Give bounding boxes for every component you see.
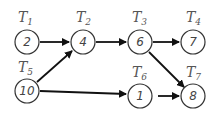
- node-t1: T1 2: [15, 9, 39, 54]
- svg-text:T4: T4: [186, 9, 201, 27]
- svg-text:T3: T3: [132, 9, 147, 27]
- node-value: 6: [136, 35, 144, 49]
- task-graph: T1 2 T2 4 T3 6 T4 7 T5 10 T6 1 T7 8: [0, 0, 222, 113]
- node-value: 4: [79, 35, 87, 49]
- svg-text:T5: T5: [18, 59, 33, 77]
- node-t7: T7 8: [181, 64, 205, 108]
- edge-t3-t7: [149, 52, 184, 87]
- node-t6: T6 1: [128, 64, 152, 108]
- node-value: 10: [19, 84, 35, 98]
- svg-text:T1: T1: [18, 9, 33, 27]
- svg-text:T6: T6: [132, 64, 147, 82]
- node-t2: T2 4: [71, 9, 95, 54]
- edge-t5-t6: [40, 91, 126, 94]
- node-value: 2: [23, 35, 31, 49]
- edge-t5-t2: [37, 51, 72, 82]
- node-value: 1: [136, 89, 144, 103]
- svg-text:T7: T7: [186, 64, 201, 82]
- node-value: 7: [189, 35, 197, 49]
- node-t3: T3 6: [128, 9, 152, 54]
- node-value: 8: [189, 89, 197, 103]
- node-t4: T4 7: [181, 9, 205, 54]
- node-t5: T5 10: [15, 59, 39, 103]
- svg-text:T2: T2: [76, 9, 91, 27]
